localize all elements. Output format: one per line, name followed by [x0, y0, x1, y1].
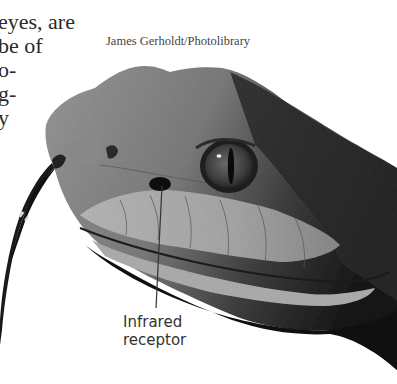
callout-leader-line [0, 0, 397, 384]
callout-label-line1: Infrared [123, 313, 186, 331]
infrared-receptor-label: Infrared receptor [123, 313, 186, 349]
callout-label-line2: receptor [123, 331, 186, 349]
textbook-page: eyes, are be of o- g- y James Gerholdt/P… [0, 0, 397, 384]
